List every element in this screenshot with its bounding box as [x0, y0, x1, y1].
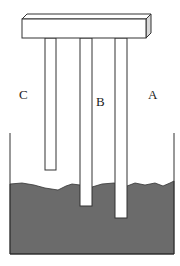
- top-bar-side-face: [146, 14, 151, 38]
- top-bar-top-face: [22, 14, 151, 19]
- top-bar: [22, 14, 151, 38]
- label-rod-b: B: [96, 95, 105, 108]
- label-rod-c: C: [19, 88, 28, 101]
- top-bar-front-face: [22, 19, 146, 38]
- rod-a: [115, 38, 127, 218]
- diagram-canvas: [0, 0, 180, 266]
- label-rod-a: A: [148, 88, 157, 101]
- rod-c: [45, 38, 56, 170]
- rod-b: [80, 38, 92, 206]
